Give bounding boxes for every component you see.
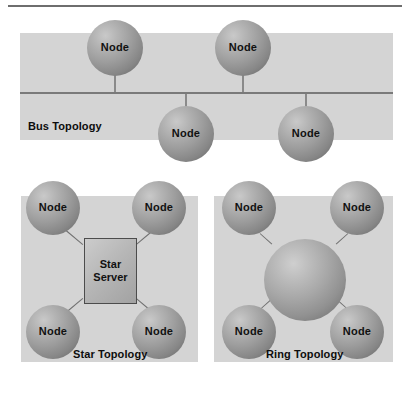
star-node-bottom-left[interactable]: Node xyxy=(26,305,80,359)
ring-topology-caption: Ring Topology xyxy=(266,348,343,360)
node-label: Node xyxy=(343,202,371,214)
bus-node-top-left[interactable]: Node xyxy=(87,20,143,76)
network-topology-figure: Node Node Node Node Bus Topology Star Se… xyxy=(0,0,410,403)
node-label: Node xyxy=(235,326,263,338)
bus-node-top-right[interactable]: Node xyxy=(215,20,271,76)
bus-backbone-line xyxy=(20,92,393,94)
star-server-label: Star Server xyxy=(93,258,127,283)
bus-node-bottom-left[interactable]: Node xyxy=(158,106,214,162)
node-label: Node xyxy=(39,202,67,214)
top-divider-rule xyxy=(8,5,402,7)
node-label: Node xyxy=(172,128,200,140)
star-node-top-left[interactable]: Node xyxy=(26,181,80,235)
node-label: Node xyxy=(292,128,320,140)
node-label: Node xyxy=(145,326,173,338)
star-topology-caption: Star Topology xyxy=(73,348,147,360)
node-label: Node xyxy=(39,326,67,338)
star-server-box[interactable]: Star Server xyxy=(84,238,137,304)
ring-hub-sphere[interactable] xyxy=(264,239,346,321)
bus-node-bottom-right[interactable]: Node xyxy=(278,106,334,162)
node-label: Node xyxy=(235,202,263,214)
star-node-top-right[interactable]: Node xyxy=(132,181,186,235)
ring-node-top-left[interactable]: Node xyxy=(222,181,276,235)
node-label: Node xyxy=(101,42,129,54)
bus-topology-caption: Bus Topology xyxy=(28,120,102,132)
node-label: Node xyxy=(145,202,173,214)
node-label: Node xyxy=(229,42,257,54)
ring-node-top-right[interactable]: Node xyxy=(330,181,384,235)
node-label: Node xyxy=(343,326,371,338)
